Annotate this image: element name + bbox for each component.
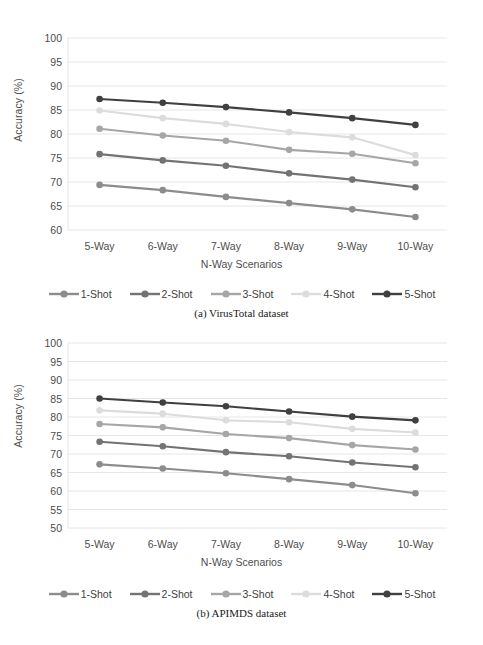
- x-tick-label: 6-Way: [148, 538, 178, 550]
- data-point-marker: [349, 134, 356, 141]
- data-point-marker: [159, 157, 166, 164]
- data-point-marker: [96, 151, 103, 158]
- data-point-marker: [286, 419, 293, 426]
- data-point-marker: [349, 413, 356, 420]
- data-point-marker: [96, 96, 103, 103]
- legend-item[interactable]: 1-Shot: [48, 288, 112, 300]
- legend-item[interactable]: 2-Shot: [129, 588, 193, 600]
- legend-item[interactable]: 5-Shot: [371, 588, 435, 600]
- data-point-marker: [96, 421, 103, 428]
- legend-marker-icon: [48, 588, 80, 600]
- legend-label: 3-Shot: [243, 288, 274, 300]
- chart-svg-a: [0, 0, 483, 234]
- data-point-marker: [96, 438, 103, 445]
- legend-marker-icon: [371, 588, 403, 600]
- chart-svg-b: [0, 330, 483, 532]
- legend-label: 1-Shot: [81, 288, 112, 300]
- x-tick-label: 9-Way: [337, 538, 367, 550]
- data-point-marker: [412, 160, 419, 167]
- data-point-marker: [159, 399, 166, 406]
- legend-a: 1-Shot2-Shot3-Shot4-Shot5-Shot: [0, 288, 483, 300]
- legend-marker-icon: [290, 288, 322, 300]
- data-point-marker: [412, 122, 419, 129]
- data-point-marker: [286, 453, 293, 460]
- data-point-marker: [159, 115, 166, 122]
- data-point-marker: [286, 476, 293, 483]
- data-point-marker: [412, 490, 419, 497]
- data-point-marker: [349, 482, 356, 489]
- x-tick-label: 8-Way: [274, 538, 304, 550]
- data-point-marker: [223, 449, 230, 456]
- data-point-marker: [159, 187, 166, 194]
- legend-label: 3-Shot: [243, 588, 274, 600]
- data-point-marker: [349, 176, 356, 183]
- data-point-marker: [412, 417, 419, 424]
- data-point-marker: [349, 115, 356, 122]
- legend-item[interactable]: 4-Shot: [290, 588, 354, 600]
- legend-item[interactable]: 3-Shot: [210, 588, 274, 600]
- data-point-marker: [286, 408, 293, 415]
- data-point-marker: [96, 107, 103, 114]
- legend-marker-icon: [129, 588, 161, 600]
- data-point-marker: [223, 104, 230, 111]
- data-point-marker: [159, 132, 166, 139]
- legend-label: 4-Shot: [323, 288, 354, 300]
- figure-two-line-charts: Accuracy (%) 6065707580859095100 5-Way6-…: [0, 0, 483, 645]
- data-point-marker: [96, 182, 103, 189]
- legend-marker-icon: [210, 588, 242, 600]
- legend-marker-icon: [290, 588, 322, 600]
- data-point-marker: [159, 424, 166, 431]
- legend-b: 1-Shot2-Shot3-Shot4-Shot5-Shot: [0, 588, 483, 600]
- x-tick-label: 5-Way: [85, 240, 115, 252]
- x-axis-label-b: N-Way Scenarios: [0, 556, 483, 568]
- legend-label: 2-Shot: [162, 288, 193, 300]
- caption-b: (b) APIMDS dataset: [0, 607, 483, 619]
- legend-item[interactable]: 5-Shot: [371, 288, 435, 300]
- series-line: [100, 185, 416, 217]
- data-point-marker: [223, 417, 230, 424]
- data-point-marker: [223, 470, 230, 477]
- data-point-marker: [223, 403, 230, 410]
- data-point-marker: [412, 184, 419, 191]
- data-point-marker: [159, 410, 166, 417]
- legend-marker-icon: [371, 288, 403, 300]
- data-point-marker: [159, 465, 166, 472]
- legend-item[interactable]: 1-Shot: [48, 588, 112, 600]
- data-point-marker: [286, 147, 293, 154]
- legend-item[interactable]: 2-Shot: [129, 288, 193, 300]
- data-point-marker: [286, 129, 293, 136]
- data-point-marker: [223, 137, 230, 144]
- series-line: [100, 464, 416, 493]
- x-tick-label: 7-Way: [211, 240, 241, 252]
- data-point-marker: [286, 109, 293, 116]
- data-point-marker: [349, 206, 356, 213]
- legend-label: 5-Shot: [404, 288, 435, 300]
- data-point-marker: [96, 461, 103, 468]
- x-tick-label: 9-Way: [337, 240, 367, 252]
- data-point-marker: [286, 200, 293, 207]
- caption-a: (a) VirusTotal dataset: [0, 307, 483, 319]
- legend-item[interactable]: 3-Shot: [210, 288, 274, 300]
- data-point-marker: [349, 426, 356, 433]
- data-point-marker: [159, 443, 166, 450]
- data-point-marker: [412, 464, 419, 471]
- legend-label: 4-Shot: [323, 588, 354, 600]
- data-point-marker: [286, 170, 293, 177]
- legend-label: 2-Shot: [162, 588, 193, 600]
- data-point-marker: [96, 125, 103, 132]
- data-point-marker: [349, 150, 356, 157]
- data-point-marker: [223, 194, 230, 201]
- chart-panel-virustotal: Accuracy (%) 6065707580859095100 5-Way6-…: [0, 0, 483, 330]
- data-point-marker: [412, 429, 419, 436]
- data-point-marker: [96, 407, 103, 414]
- legend-marker-icon: [210, 288, 242, 300]
- x-tick-label: 10-Way: [398, 538, 434, 550]
- legend-marker-icon: [129, 288, 161, 300]
- x-tick-label: 6-Way: [148, 240, 178, 252]
- legend-item[interactable]: 4-Shot: [290, 288, 354, 300]
- data-point-marker: [223, 431, 230, 438]
- data-point-marker: [96, 395, 103, 402]
- data-point-marker: [349, 442, 356, 449]
- data-point-marker: [412, 214, 419, 221]
- data-point-marker: [159, 100, 166, 107]
